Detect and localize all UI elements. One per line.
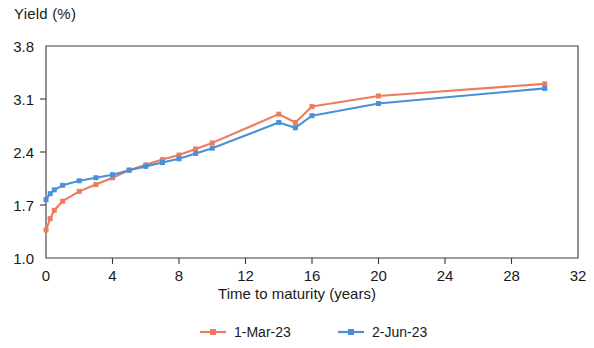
x-tick-labels: 048121620242832 (42, 267, 587, 284)
legend-swatch-marker (348, 329, 354, 335)
data-point (143, 164, 148, 169)
data-point (376, 101, 381, 106)
data-point (193, 151, 198, 156)
data-point (77, 178, 82, 183)
data-point (310, 113, 315, 118)
y-tick-label: 2.4 (13, 144, 34, 161)
data-point (210, 146, 215, 151)
data-point (210, 140, 215, 145)
x-tick-label: 4 (108, 267, 116, 284)
axes (40, 46, 578, 264)
x-tick-label: 12 (237, 267, 254, 284)
line-chart-canvas: 1.01.72.43.13.8 048121620242832 1-Mar-23… (0, 0, 594, 348)
legend-label: 2-Jun-23 (372, 324, 427, 340)
series-line (46, 84, 545, 230)
data-point (93, 182, 98, 187)
data-point (293, 125, 298, 130)
chart-figure: Yield (%) 1.01.72.43.13.8 04812162024283… (0, 0, 594, 348)
data-point (276, 112, 281, 117)
y-tick-label: 3.1 (13, 91, 34, 108)
data-point (48, 216, 53, 221)
x-tick-label: 28 (503, 267, 520, 284)
data-point (276, 120, 281, 125)
legend-swatch-marker (210, 329, 216, 335)
y-tick-label: 1.0 (13, 250, 34, 267)
data-point (542, 81, 547, 86)
data-point (160, 160, 165, 165)
data-point (376, 93, 381, 98)
x-axis-title: Time to maturity (years) (218, 285, 376, 302)
y-tick-label: 1.7 (13, 197, 34, 214)
data-point (93, 175, 98, 180)
legend-item-2-Jun-23[interactable]: 2-Jun-23 (338, 324, 427, 340)
x-tick-label: 20 (370, 267, 387, 284)
data-point (52, 208, 57, 213)
data-point (44, 227, 49, 232)
series-line (46, 88, 545, 199)
x-tick-label: 24 (437, 267, 454, 284)
y-tick-label: 3.8 (13, 38, 34, 55)
series-group (44, 81, 548, 232)
y-tick-labels: 1.01.72.43.13.8 (13, 38, 34, 267)
data-point (110, 172, 115, 177)
data-point (293, 120, 298, 125)
data-point (177, 156, 182, 161)
x-tick-label: 8 (175, 267, 183, 284)
data-point (60, 183, 65, 188)
series-2-Jun-23 (44, 86, 548, 202)
x-tick-label: 32 (570, 267, 587, 284)
data-point (310, 104, 315, 109)
x-tick-label: 16 (304, 267, 321, 284)
data-point (193, 146, 198, 151)
data-point (127, 168, 132, 173)
plot-frame (46, 46, 578, 258)
legend-label: 1-Mar-23 (234, 324, 291, 340)
legend-item-1-Mar-23[interactable]: 1-Mar-23 (200, 324, 291, 340)
x-tick-label: 0 (42, 267, 50, 284)
series-1-Mar-23 (44, 81, 548, 232)
data-point (52, 187, 57, 192)
legend: 1-Mar-232-Jun-23 (200, 324, 427, 340)
data-point (60, 199, 65, 204)
data-point (44, 197, 49, 202)
data-point (542, 86, 547, 91)
data-point (77, 189, 82, 194)
